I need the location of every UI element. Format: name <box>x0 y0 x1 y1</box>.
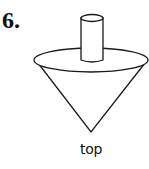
figure-caption: top <box>0 142 149 156</box>
cone <box>38 63 145 132</box>
cylinder-top <box>81 15 103 22</box>
cylinder-body <box>81 18 103 62</box>
